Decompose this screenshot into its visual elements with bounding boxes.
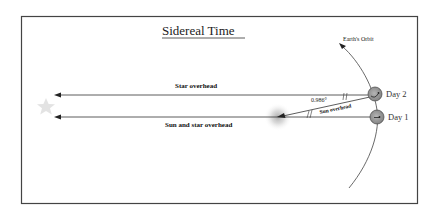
day2-label: Day 2: [386, 89, 407, 99]
earth-day1-icon: [370, 110, 384, 124]
sun-and-star-overhead-label: Sun and star overhead: [165, 121, 232, 129]
earth-orbit-label: Earth's Orbit: [343, 36, 374, 42]
earth-day2: [368, 87, 382, 101]
earth-day2-icon: [368, 87, 382, 101]
angle-value-label: 0.986°: [311, 97, 328, 103]
sidereal-time-diagram: Sidereal Time Earth's Orbit Star overhea…: [0, 0, 441, 211]
day1-label: Day 1: [388, 112, 409, 122]
page-title: Sidereal Time: [162, 23, 235, 38]
star-overhead-label: Star overhead: [175, 82, 217, 90]
earth-day1: [370, 110, 384, 124]
